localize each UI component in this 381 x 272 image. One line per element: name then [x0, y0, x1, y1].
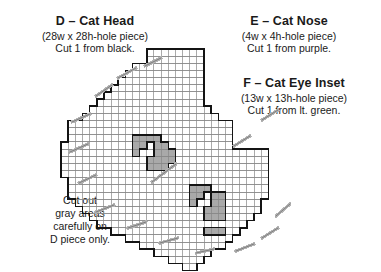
pattern-sheet: D – Cat Head (28w x 28h-hole piece) Cut …	[0, 0, 381, 272]
cat-head-grid-diagram	[0, 0, 381, 272]
pointer-leaders	[70, 58, 290, 253]
